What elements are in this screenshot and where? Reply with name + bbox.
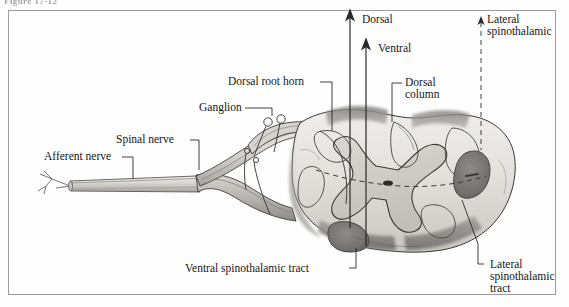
label-lateral-spinothalamic-top: Lateralspinothalamic <box>487 13 552 37</box>
label-dorsal-column-line1: Dorsal <box>405 76 436 88</box>
label-lst-bottom-line2: spinothalamic <box>490 270 555 282</box>
label-afferent-nerve: Afferent nerve <box>44 150 111 163</box>
label-spinal-nerve: Spinal nerve <box>116 133 174 146</box>
free-nerve-ending-icon <box>38 171 70 194</box>
leader-ganglion <box>245 108 272 116</box>
figure-root: Figure 17-12 <box>0 0 569 307</box>
label-dorsal-column: Dorsalcolumn <box>405 76 440 100</box>
leader-spinal-nerve <box>190 140 199 170</box>
label-dorsal-arrow: Dorsal <box>362 13 393 26</box>
label-ganglion: Ganglion <box>199 101 242 114</box>
leader-afferent-nerve <box>122 157 133 179</box>
label-lst-top-line1: Lateral <box>487 13 520 25</box>
label-dorsal-root-horn: Dorsal root horn <box>228 75 304 88</box>
label-ventral-arrow: Ventral <box>378 42 411 55</box>
label-lateral-spinothalamic-bottom: Lateralspinothalamictract <box>490 258 555 294</box>
spinal-cord-cross-section <box>289 106 515 252</box>
afferent-nerve-group <box>38 171 200 194</box>
label-lst-bottom-line3: tract <box>490 282 510 294</box>
label-ventral-spinothalamic-tract: Ventral spinothalamic tract <box>185 262 309 275</box>
label-dorsal-column-line2: column <box>405 88 440 100</box>
label-lst-top-line2: spinothalamic <box>487 25 552 37</box>
afferent-nerve-shaft <box>70 176 200 192</box>
label-lst-bottom-line1: Lateral <box>490 258 523 270</box>
